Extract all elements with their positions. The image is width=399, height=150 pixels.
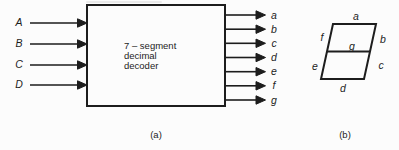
output-label-a: a	[271, 9, 277, 20]
input-arrow-A	[30, 19, 87, 27]
output-arrow-f	[225, 82, 266, 90]
segment-label-b: b	[380, 34, 386, 45]
output-label-c: c	[271, 38, 276, 49]
output-arrow-b	[225, 25, 266, 33]
scan-artifact	[86, 1, 162, 3]
output-label-e: e	[271, 66, 277, 77]
segment-label-f: f	[321, 32, 324, 43]
input-arrow-C	[30, 61, 87, 69]
segment-label-e: e	[312, 61, 318, 72]
output-label-b: b	[271, 23, 277, 34]
output-arrow-g	[225, 96, 266, 104]
input-label-A: A	[15, 16, 22, 27]
diagram-strokes	[0, 0, 399, 150]
input-label-B: B	[15, 37, 22, 48]
output-label-f: f	[273, 80, 276, 91]
figure-7segment-decoder-diagram: A B C D 7 – segment decimal decoder a b …	[0, 0, 399, 150]
output-label-d: d	[271, 52, 277, 63]
output-arrow-a	[225, 11, 266, 19]
segment-label-c: c	[378, 60, 383, 71]
input-arrow-D	[30, 81, 87, 89]
input-label-C: C	[15, 58, 23, 69]
output-arrow-c	[225, 39, 266, 47]
output-arrow-d	[225, 53, 266, 61]
segment-label-a: a	[353, 11, 359, 22]
segment-label-d: d	[340, 83, 346, 94]
input-arrow-B	[30, 40, 87, 48]
input-label-D: D	[15, 79, 23, 90]
caption-b: (b)	[339, 130, 351, 140]
decoder-box-label: 7 – segment decimal decoder	[124, 41, 176, 71]
segment-label-g: g	[349, 41, 355, 52]
output-label-g: g	[271, 94, 277, 105]
decoder-box-label-line3: decoder	[124, 61, 176, 71]
caption-a: (a)	[150, 130, 162, 140]
output-arrow-e	[225, 68, 266, 76]
